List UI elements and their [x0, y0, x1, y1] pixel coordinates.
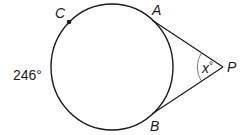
- label-a: A: [151, 2, 161, 18]
- angle-arc-p: [197, 53, 201, 81]
- point-c-dot: [67, 20, 72, 25]
- arc-measure-label: 246°: [13, 67, 42, 83]
- angle-label: x°: [201, 60, 213, 76]
- diagram-canvas: C A B P 246° x°: [0, 0, 240, 135]
- label-b: B: [150, 118, 159, 134]
- label-c: C: [55, 5, 66, 21]
- angle-degree-symbol: °: [209, 60, 213, 71]
- tangent-line-pb: [152, 67, 223, 114]
- label-p: P: [227, 59, 237, 75]
- geometry-figure: C A B P 246° x°: [0, 0, 240, 135]
